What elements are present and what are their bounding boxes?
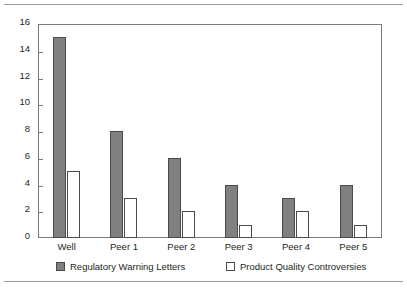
y-axis-tick-label: 10 — [19, 97, 30, 107]
x-axis-category-label: Peer 2 — [153, 242, 210, 252]
bar-product-quality-controversies[interactable] — [354, 225, 367, 238]
legend-label: Regulatory Warning Letters — [70, 262, 185, 272]
bar-product-quality-controversies[interactable] — [67, 171, 80, 238]
legend-swatch-icon — [56, 262, 65, 271]
legend-item[interactable]: Regulatory Warning Letters — [56, 262, 185, 272]
x-axis-category-label: Well — [38, 242, 95, 252]
legend-item[interactable]: Product Quality Controversies — [226, 262, 366, 272]
x-axis-category-label: Peer 5 — [325, 242, 382, 252]
chart-page: 0246810121416 WellPeer 1Peer 2Peer 3Peer… — [0, 0, 407, 291]
bar-group — [210, 24, 267, 238]
bars-layer — [38, 24, 382, 238]
x-axis-category-label: Peer 1 — [95, 242, 152, 252]
footer-divider — [4, 281, 403, 282]
bar-group — [267, 24, 324, 238]
bar-product-quality-controversies[interactable] — [296, 211, 309, 238]
y-axis-tick-label: 8 — [25, 124, 30, 134]
bar-regulatory-warning-letters[interactable] — [340, 185, 353, 239]
bar-product-quality-controversies[interactable] — [182, 211, 195, 238]
bar-group — [325, 24, 382, 238]
bar-regulatory-warning-letters[interactable] — [110, 131, 123, 238]
y-axis-tick-label: 4 — [25, 178, 30, 188]
bar-regulatory-warning-letters[interactable] — [53, 37, 66, 238]
x-axis-category-label: Peer 4 — [267, 242, 324, 252]
bar-group — [95, 24, 152, 238]
y-axis-tick-label: 16 — [19, 17, 30, 27]
bar-regulatory-warning-letters[interactable] — [225, 185, 238, 239]
bar-chart-figure: 0246810121416 WellPeer 1Peer 2Peer 3Peer… — [0, 10, 407, 281]
x-axis-labels: WellPeer 1Peer 2Peer 3Peer 4Peer 5 — [38, 242, 382, 258]
y-axis-tick-label: 0 — [25, 231, 30, 241]
chart-legend: Regulatory Warning LettersProduct Qualit… — [38, 262, 382, 278]
y-axis-tick-label: 14 — [19, 44, 30, 54]
y-axis-tick-label: 2 — [25, 204, 30, 214]
legend-label: Product Quality Controversies — [240, 262, 366, 272]
bar-regulatory-warning-letters[interactable] — [282, 198, 295, 238]
header-divider — [4, 4, 403, 5]
y-axis-tick-label: 6 — [25, 151, 30, 161]
bar-group — [38, 24, 95, 238]
x-axis-category-label: Peer 3 — [210, 242, 267, 252]
bar-regulatory-warning-letters[interactable] — [168, 158, 181, 238]
y-axis-tick-label: 12 — [19, 71, 30, 81]
legend-swatch-icon — [226, 262, 235, 271]
bar-product-quality-controversies[interactable] — [239, 225, 252, 238]
bar-product-quality-controversies[interactable] — [124, 198, 137, 238]
y-axis: 0246810121416 — [0, 24, 38, 238]
bar-group — [153, 24, 210, 238]
